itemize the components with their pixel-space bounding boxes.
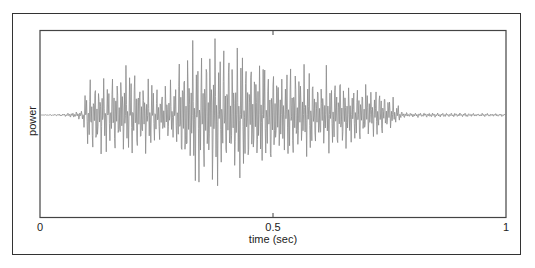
x-axis-label: time (sec) <box>249 233 297 245</box>
waveform-line <box>40 39 506 186</box>
x-tick-label-0.5: 0.5 <box>265 221 280 233</box>
x-tick-label-1: 1 <box>503 221 509 233</box>
y-axis-label: power <box>26 106 38 136</box>
x-tick-label-0: 0 <box>37 221 43 233</box>
